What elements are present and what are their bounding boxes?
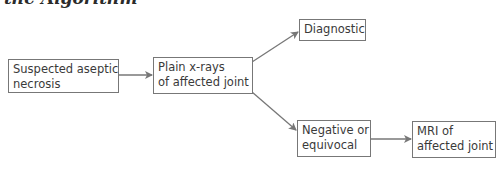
node-mri-affected-joint: MRI of affected joint [412, 121, 496, 158]
node-diagnostic: Diagnostic [299, 19, 366, 41]
arrow-xrays-to-negative [252, 92, 296, 130]
node-negative-or-equivocal: Negative or equivocal [297, 120, 371, 157]
node-suspected-aseptic-necrosis: Suspected aseptic necrosis [8, 59, 119, 93]
node-line: necrosis [13, 77, 114, 92]
node-line: Diagnostic [304, 22, 361, 37]
node-line: equivocal [302, 138, 366, 153]
node-line: Plain x-rays [158, 60, 248, 75]
node-line: MRI of [417, 124, 491, 139]
arrow-xrays-to-diagnostic [252, 32, 298, 62]
node-line: of affected joint [158, 75, 248, 90]
node-line: Suspected aseptic [13, 62, 114, 77]
node-plain-xrays: Plain x-rays of affected joint [153, 57, 253, 94]
node-line: affected joint [417, 139, 491, 154]
node-line: Negative or [302, 123, 366, 138]
